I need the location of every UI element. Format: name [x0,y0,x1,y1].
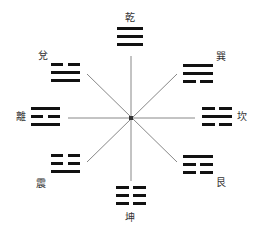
trigram-label: 巽 [215,51,227,62]
trigram-label: 坤 [124,212,136,223]
yang-line [183,72,213,75]
trigram-label: 震 [35,178,47,189]
yang-line [51,71,80,74]
yin-line-segment [183,171,196,174]
yin-line-segment [219,123,232,126]
yang-line [117,35,143,38]
yin-line-segment [183,163,196,166]
yin-line-segment [219,107,232,110]
yang-line [117,27,143,30]
trigram-label: 坎 [236,111,248,122]
yin-line-segment [51,154,63,157]
yin-line-segment [202,123,215,126]
yin-line-segment [116,186,129,189]
bagua-diagram: 乾巽坎艮坤震離兌 [0,0,260,235]
yin-line-segment [48,115,60,118]
yin-line-segment [116,194,129,197]
yin-line-segment [202,107,215,110]
yin-line-segment [200,80,213,83]
yang-line [51,79,80,82]
yin-line-segment [31,115,43,118]
yin-line-segment [200,163,213,166]
yin-line-segment [200,171,213,174]
yang-line [183,64,213,67]
yin-line-segment [116,202,129,205]
trigram-label: 離 [15,111,27,122]
yang-line [31,107,60,110]
yin-line-segment [68,154,80,157]
yin-line-segment [51,162,63,165]
yin-line-segment [183,80,196,83]
yin-line-segment [133,202,146,205]
yin-line-segment [51,63,63,66]
yin-line-segment [68,162,80,165]
center-point [129,116,133,120]
yang-line [31,123,60,126]
yang-line [117,43,143,46]
yang-line [183,155,213,158]
trigram-label: 艮 [215,177,227,188]
trigram-label: 兌 [37,50,49,61]
yin-line-segment [133,186,146,189]
yin-line-segment [68,63,80,66]
trigram-label: 乾 [124,12,136,23]
yang-line [51,170,80,173]
yang-line [202,115,232,118]
yin-line-segment [133,194,146,197]
